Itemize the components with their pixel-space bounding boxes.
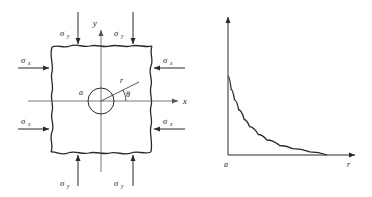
sigma-x-left-lower-symbol: σ	[21, 116, 26, 126]
sigma-y-bottom-right: σ y	[114, 155, 133, 189]
radial-distance-label: r	[120, 76, 124, 85]
sigma-x-left-upper-sub: x	[27, 60, 31, 66]
sigma-y-top-left: σ y	[60, 12, 78, 44]
sigma-x-right-upper-sub: x	[169, 60, 173, 66]
sigma-x-right-upper: σ x	[154, 55, 185, 68]
sigma-y-bottom-right-sub: y	[120, 183, 124, 189]
theta-angle-label: θ	[126, 90, 130, 99]
right-panel-group: a r	[224, 17, 355, 169]
y-axis-label: y	[92, 18, 97, 28]
sigma-x-left-lower: σ x	[18, 116, 49, 129]
figure-root: x y a r θ σ y σ y	[0, 0, 372, 197]
sigma-y-top-right-symbol: σ	[114, 28, 119, 38]
sigma-x-right-lower: σ x	[154, 116, 185, 129]
left-panel-group: x y a r θ σ y σ y	[18, 12, 187, 189]
plate-outline	[51, 45, 152, 154]
sigma-y-top-right-sub: y	[120, 33, 124, 39]
x-axis-label: x	[182, 96, 187, 106]
sigma-x-left-lower-sub: x	[27, 121, 31, 127]
sigma-x-left-upper: σ x	[18, 55, 49, 68]
sigma-x-left-upper-symbol: σ	[21, 55, 26, 65]
sigma-y-top-left-symbol: σ	[60, 28, 65, 38]
plot-x-axis-label: r	[347, 160, 351, 169]
coordinate-axes	[28, 30, 178, 172]
hole-radius-label: a	[79, 88, 83, 97]
sigma-x-right-upper-symbol: σ	[163, 55, 168, 65]
figure-canvas: x y a r θ σ y σ y	[0, 0, 372, 197]
sigma-x-right-lower-sub: x	[169, 121, 173, 127]
sigma-y-bottom-left: σ y	[60, 155, 78, 189]
sigma-y-top-left-sub: y	[66, 33, 70, 39]
plot-x-origin-label: a	[224, 160, 228, 169]
sigma-y-top-right: σ y	[114, 12, 133, 44]
sigma-y-bottom-left-sub: y	[66, 183, 70, 189]
sigma-x-right-lower-symbol: σ	[163, 116, 168, 126]
stress-decay-curve	[228, 76, 327, 155]
sigma-y-bottom-left-symbol: σ	[60, 178, 65, 188]
sigma-y-bottom-right-symbol: σ	[114, 178, 119, 188]
